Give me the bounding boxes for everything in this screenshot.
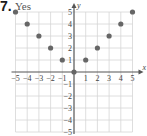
y-tick-label: 3 — [68, 32, 72, 41]
y-tick-label: 1 — [68, 56, 72, 65]
y-tick-label: 4 — [68, 20, 72, 29]
y-axis-arrow-icon — [72, 3, 77, 8]
x-tick-label: 2 — [95, 74, 99, 83]
y-tick-label: −1 — [63, 80, 72, 89]
data-point — [118, 21, 123, 26]
x-tick-label: −4 — [23, 74, 32, 83]
y-tick-label: −3 — [63, 104, 72, 113]
data-point — [83, 57, 88, 62]
x-tick-label: 3 — [107, 74, 111, 83]
data-point — [48, 45, 53, 50]
data-point — [60, 57, 65, 62]
x-tick-label: 4 — [119, 74, 123, 83]
x-tick-label: −2 — [46, 74, 55, 83]
x-tick-label: −3 — [35, 74, 44, 83]
data-point — [25, 21, 30, 26]
data-point — [13, 9, 18, 14]
data-point — [95, 45, 100, 50]
y-tick-label: 2 — [68, 44, 72, 53]
y-tick-label: −5 — [63, 128, 72, 136]
x-tick-label: 1 — [84, 74, 88, 83]
y-axis-label: y — [76, 1, 81, 10]
data-point — [130, 9, 135, 14]
coordinate-plane: xy−5−4−3−2−11234554321−1−2−3−4−5 — [0, 0, 147, 136]
y-tick-label: 5 — [68, 8, 72, 17]
data-point — [107, 33, 112, 38]
y-tick-label: −2 — [63, 92, 72, 101]
data-point — [36, 33, 41, 38]
x-tick-label: −5 — [11, 74, 20, 83]
x-tick-label: 5 — [131, 74, 135, 83]
y-tick-label: −4 — [63, 116, 72, 125]
data-point — [71, 69, 76, 74]
x-axis-label: x — [142, 63, 147, 72]
